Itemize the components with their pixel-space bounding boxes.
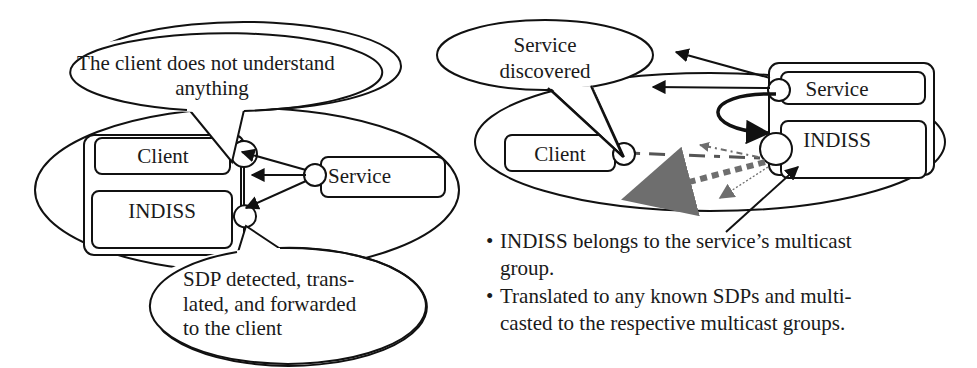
right-service-port — [768, 79, 790, 101]
bullet-dot: • — [486, 228, 493, 255]
left-callout-bottom-line2: lated, and forwarded — [183, 292, 357, 316]
bullet-item: • INDISS belongs to the service’s multic… — [484, 228, 964, 282]
bullet-item: • Translated to any known SDPs and multi… — [484, 283, 964, 337]
right-callout-line1: Service — [514, 33, 577, 57]
right-indiss-label: INDISS — [803, 128, 871, 152]
right-indiss-port — [760, 133, 792, 165]
bullet-dot: • — [486, 283, 493, 310]
right-callout-line2: discovered — [500, 59, 591, 83]
right-client-label: Client — [534, 142, 585, 166]
left-service-port — [304, 164, 326, 186]
right-diagram: Service discovered Client Service INDISS — [437, 20, 945, 232]
left-service-label: Service — [328, 164, 391, 188]
left-callout-bottom-line1: SDP detected, trans- — [183, 267, 354, 291]
left-client-label: Client — [137, 144, 188, 168]
bullet-text-line: group. — [500, 255, 964, 282]
left-callout-top-line2: anything — [175, 76, 249, 100]
left-callout-bottom-line3: to the client — [183, 316, 282, 340]
bullet-text-line: Translated to any known SDPs and multi- — [500, 283, 964, 310]
bullet-list: • INDISS belongs to the service’s multic… — [484, 228, 964, 338]
left-indiss-label: INDISS — [128, 199, 196, 223]
left-diagram: The client does not understand anything … — [35, 22, 459, 366]
left-callout-top-line1: The client does not understand — [77, 51, 335, 75]
bullet-text-line: casted to the respective multicast group… — [500, 310, 964, 337]
left-indiss-port — [234, 205, 256, 227]
right-service-label: Service — [806, 77, 869, 101]
bullet-text-line: INDISS belongs to the service’s multicas… — [500, 228, 964, 255]
